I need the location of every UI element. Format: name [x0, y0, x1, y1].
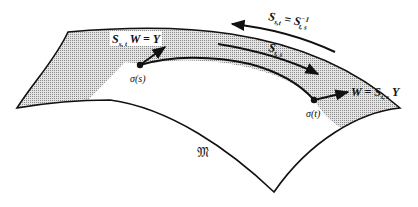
- label-manifold: 𝔐: [197, 145, 209, 160]
- label-sigma-s: σ(s): [130, 73, 146, 85]
- point-sigma-s: [137, 62, 143, 68]
- manifold-surface: [0, 0, 418, 207]
- parallel-transport-diagram: Ss, t W = Y σ(s) σ(t) St, s Ss,t = S−1t,…: [0, 0, 418, 207]
- label-backward-transport: Ss,t = S−1t, s: [267, 9, 310, 32]
- point-sigma-t: [311, 97, 317, 103]
- label-vector-at-t: W = St, s Y: [351, 85, 401, 101]
- label-sigma-t: σ(t): [306, 108, 321, 120]
